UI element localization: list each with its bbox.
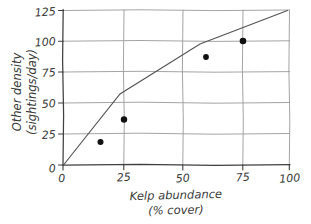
y-axis-line [63, 10, 64, 166]
x-tick-label: 75 [235, 171, 250, 185]
x-tick-label: 25 [116, 171, 131, 185]
y-tick-label: 100 [34, 35, 56, 49]
x-tick-label: 0 [58, 172, 66, 185]
y-tick-label: 50 [41, 97, 56, 111]
data-point [98, 139, 104, 145]
gridline-y-100 [64, 41, 290, 42]
y-tick-label: 25 [41, 128, 56, 142]
data-point [203, 54, 209, 60]
x-axis-title-line2: (% cover) [148, 202, 204, 217]
y-axis-title-line2: (sightings/day) [25, 49, 39, 135]
x-axis-line [63, 164, 290, 165]
x-tick-label: 50 [175, 172, 190, 186]
y-axis-title-line1: Other density [10, 53, 24, 132]
data-point [121, 116, 127, 122]
y-tick-label: 75 [41, 66, 56, 80]
x-axis-title-line1: Kelp abundance [130, 187, 223, 203]
gridline-y-75 [64, 71, 290, 72]
x-tick-label: 100 [279, 171, 301, 185]
y-tick-label: 0 [48, 162, 56, 175]
gridline-y-125 [64, 10, 290, 11]
y-axis-title: Other density (sightings/day) [10, 49, 39, 135]
y-tick-label: 125 [34, 5, 56, 19]
scatter-chart: 0 25 50 75 100 125 0 25 50 75 100 Kelp a… [0, 0, 311, 224]
data-point [240, 38, 247, 45]
